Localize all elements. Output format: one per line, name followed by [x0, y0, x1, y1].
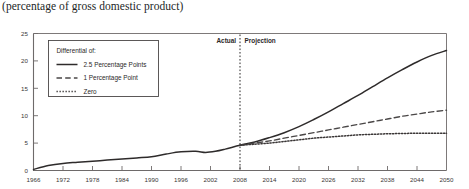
- projection-label: Projection: [245, 37, 276, 45]
- x-tick-label-1972: 1972: [56, 176, 70, 183]
- x-tick-label-2050: 2050: [440, 176, 454, 183]
- x-tick-label-2038: 2038: [381, 176, 395, 183]
- y-tick-label-25: 25: [21, 30, 28, 37]
- x-tick-label-1978: 1978: [86, 176, 100, 183]
- x-tick-label-2044: 2044: [410, 176, 424, 183]
- legend-label-2: Zero: [84, 88, 98, 95]
- series-line-2: [240, 133, 447, 145]
- x-tick-label-1990: 1990: [145, 176, 159, 183]
- y-tick-label-0: 0: [25, 167, 29, 174]
- series-line-1: [240, 110, 447, 145]
- x-tick-label-1984: 1984: [115, 176, 129, 183]
- y-tick-label-10: 10: [21, 112, 28, 119]
- x-tick-label-2008: 2008: [233, 176, 247, 183]
- legend-label-0: 2.5 Percentage Points: [84, 61, 147, 69]
- x-tick-label-2020: 2020: [292, 176, 306, 183]
- x-tick-label-2002: 2002: [204, 176, 218, 183]
- chart-figure: (percentage of gross domestic product) 0…: [0, 0, 469, 189]
- x-tick-label-1966: 1966: [27, 176, 41, 183]
- legend-title: Differential of:: [57, 47, 97, 54]
- y-tick-label-5: 5: [25, 139, 29, 146]
- y-tick-label-20: 20: [21, 57, 28, 64]
- legend-label-1: 1 Percentage Point: [84, 74, 139, 82]
- x-tick-label-2032: 2032: [351, 176, 365, 183]
- y-tick-label-15: 15: [21, 85, 28, 92]
- x-tick-label-1996: 1996: [174, 176, 188, 183]
- x-tick-label-2026: 2026: [322, 176, 336, 183]
- x-tick-label-2014: 2014: [263, 176, 277, 183]
- chart-plot-area: 0510152025196619721978198419901996200220…: [0, 0, 469, 189]
- actual-label: Actual: [216, 37, 236, 44]
